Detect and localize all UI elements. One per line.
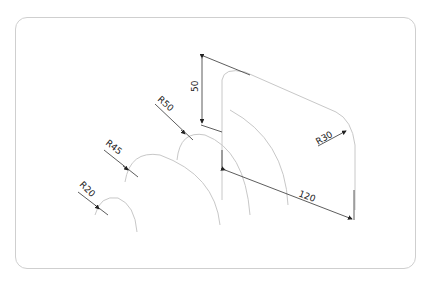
dimension-label-r30: R30 bbox=[314, 129, 335, 147]
arc-r20 bbox=[95, 198, 137, 232]
leader-r45 bbox=[104, 150, 138, 177]
leader-r50 bbox=[155, 104, 193, 140]
dimension-120 bbox=[222, 150, 354, 220]
dimension-label-r45: R45 bbox=[104, 138, 124, 157]
dimension-label-r20: R20 bbox=[78, 179, 98, 199]
arc-r45 bbox=[125, 154, 220, 225]
dimension-label-r50: R50 bbox=[156, 94, 176, 113]
arc-r50 bbox=[177, 134, 250, 215]
dimension-label-50: 50 bbox=[190, 80, 200, 92]
dimension-50 bbox=[201, 55, 250, 132]
isometric-drawing: 50 120 R30 R50 R45 R20 bbox=[0, 0, 431, 283]
main-arch bbox=[222, 71, 355, 210]
